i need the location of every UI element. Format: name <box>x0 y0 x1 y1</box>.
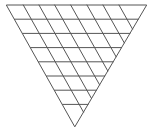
diagonal-grid-line <box>71 5 108 71</box>
diagonal-grid-line <box>119 5 133 29</box>
diagonal-grid-lines <box>23 5 132 112</box>
diagonal-grid-line <box>23 5 83 112</box>
horizontal-grid-lines <box>15 19 139 104</box>
triangle-grid-diagram <box>0 0 153 133</box>
diagonal-grid-line <box>87 5 116 57</box>
triangle-outline <box>7 5 147 127</box>
diagonal-grid-line <box>103 5 124 43</box>
